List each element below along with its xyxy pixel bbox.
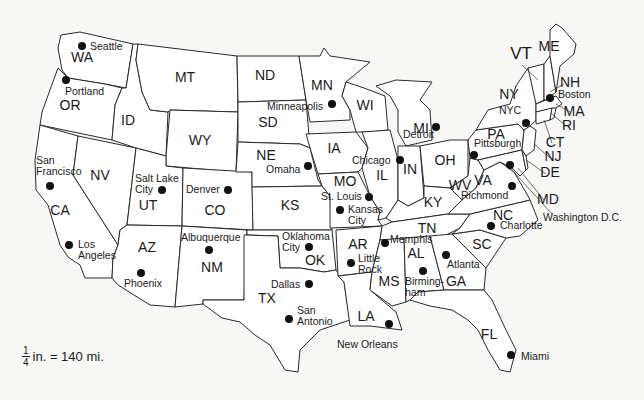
city-marker-icon [507,351,515,359]
state-label-nv: NV [90,167,110,183]
city-label: Detroit [403,128,434,140]
state-label-ga: GA [446,273,467,289]
city-marker-icon [137,269,145,277]
city-marker-icon [470,151,478,159]
state-label-nm: NM [201,259,223,275]
city-marker-icon [78,42,86,50]
city-marker-icon [419,267,427,275]
state-label-tx: TX [258,290,277,306]
state-label-me: ME [539,38,560,54]
state-label-wy: WY [189,132,212,148]
state-label-mt: MT [175,69,196,85]
city-label: LittleRock [358,252,383,275]
city-marker-icon [304,162,312,170]
city-marker-icon [508,182,516,190]
city-marker-icon [224,186,232,194]
city-label: Denver [186,183,220,195]
state-label-ok: OK [305,252,326,268]
us-map: WAORCANVIDMTWYUTCOAZNMNDSDNEKSOKTXMNIAMO… [0,0,644,400]
state-label-mn: MN [311,77,333,93]
state-label-ky: KY [424,194,443,210]
state-label-de: DE [540,164,559,180]
state-label-la: LA [357,308,375,324]
city-marker-icon [546,94,554,102]
city-marker-icon [487,222,495,230]
city-label: Miami [521,350,549,362]
city-marker-icon [46,182,54,190]
city-marker-icon [305,243,313,251]
city-label: Atlanta [447,258,480,270]
city-label: Memphis [390,233,433,245]
city-label: St. Louis [321,190,362,202]
state-fl [410,290,516,372]
state-label-va: VA [474,172,492,188]
city-label: Albuquerque [181,231,241,243]
state-label-md: MD [537,191,559,207]
state-label-mo: MO [334,173,357,189]
city-label: Chicago [352,154,391,166]
state-az [112,225,182,307]
city-marker-icon [522,119,530,127]
state-label-fl: FL [481,326,498,342]
scale-denominator: 4 [23,357,29,368]
city-label: Boston [558,88,591,100]
city-label: Omaha [266,163,301,175]
state-label-ut: UT [139,197,158,213]
state-label-sd: SD [258,114,277,130]
state-label-ms: MS [379,273,400,289]
state-label-az: AZ [138,239,156,255]
scale-fraction: 1 4 [22,345,30,368]
state-label-il: IL [376,167,388,183]
city-label: Charlotte [500,219,543,231]
state-label-sc: SC [472,236,491,252]
scale-numerator: 1 [22,345,30,357]
city-label: Dallas [271,278,300,290]
city-label: Washington D.C. [543,211,622,223]
state-label-nj: NJ [544,148,561,164]
scale-text: in. = 140 mi. [33,349,104,364]
city-marker-icon [365,193,373,201]
state-label-vt: VT [510,44,532,63]
state-label-al: AL [407,245,424,261]
state-label-ia: IA [327,140,341,156]
city-marker-icon [305,280,313,288]
state-co [182,168,253,230]
state-nj [522,126,536,156]
city-marker-icon [285,315,293,323]
city-marker-icon [65,241,73,249]
state-label-ks: KS [281,197,300,213]
city-label: Minneapolis [267,100,323,112]
state-label-oh: OH [435,152,456,168]
city-marker-icon [205,246,213,254]
city-label: Phoenix [124,277,163,289]
city-marker-icon [347,259,355,267]
city-label: Pittsburgh [474,137,521,149]
city-label: NYC [499,104,522,116]
state-label-wi: WI [356,97,373,113]
state-label-ca: CA [50,202,70,218]
state-label-id: ID [121,112,135,128]
city-marker-icon [158,186,166,194]
state-label-in: IN [403,161,417,177]
state-label-co: CO [205,202,226,218]
state-label-nd: ND [255,67,275,83]
city-label: Portland [65,85,104,97]
city-marker-icon [506,161,514,169]
city-marker-icon [328,100,336,108]
map-scale: 1 4 in. = 140 mi. [22,345,104,368]
city-marker-icon [336,206,344,214]
city-marker-icon [385,320,393,328]
state-label-ar: AR [348,236,367,252]
city-label: Seattle [90,40,123,52]
state-label-ri: RI [562,117,576,133]
state-label-ny: NY [499,86,519,102]
city-marker-icon [62,76,70,84]
state-label-ne: NE [256,147,275,163]
state-label-or: OR [60,97,81,113]
city-marker-icon [396,156,404,164]
city-marker-icon [381,239,389,247]
city-label: New Orleans [337,338,398,350]
city-label: Richmond [461,189,508,201]
